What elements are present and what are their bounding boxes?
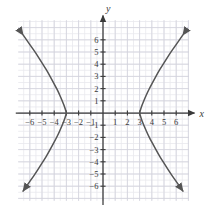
- y-tick-label: −5: [89, 169, 98, 179]
- y-tick-label: −6: [89, 181, 98, 191]
- x-tick-label: 6: [174, 117, 178, 127]
- y-tick-label: −1: [89, 120, 98, 130]
- plot-background: [0, 0, 208, 218]
- y-tick-label: −4: [89, 157, 99, 167]
- x-tick-label: −4: [50, 117, 60, 127]
- y-tick-label: 2: [94, 84, 98, 94]
- x-tick-label: −6: [25, 117, 34, 127]
- y-tick-label: 5: [94, 47, 98, 57]
- x-tick-label: 1: [113, 117, 117, 127]
- x-axis-label: x: [198, 108, 204, 119]
- y-tick-label: 6: [94, 35, 98, 45]
- y-tick-label: 3: [94, 71, 98, 81]
- coordinate-plane: −6−5−4−3−2−1123456−6−5−4−3−2−1123456 x y: [0, 0, 208, 218]
- graph-figure: −6−5−4−3−2−1123456−6−5−4−3−2−1123456 x y: [0, 0, 208, 218]
- x-tick-label: −5: [37, 117, 46, 127]
- x-tick-label: −2: [74, 117, 83, 127]
- y-tick-label: −2: [89, 132, 98, 142]
- y-tick-label: 1: [94, 96, 98, 106]
- x-tick-label: 5: [162, 117, 166, 127]
- y-axis-label: y: [105, 3, 111, 14]
- x-tick-label: 4: [150, 117, 155, 127]
- y-tick-label: −3: [89, 145, 98, 155]
- x-tick-label: 2: [125, 117, 129, 127]
